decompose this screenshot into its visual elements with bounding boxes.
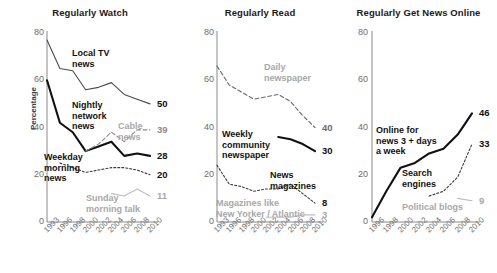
series-end-label: 39 (157, 124, 168, 135)
panel-regularly-read: Regularly Read 806040200 199319961998200… (180, 0, 340, 273)
series-end-label: 33 (479, 138, 490, 149)
plot-area-watch (0, 0, 180, 273)
annotation-online-for-news: Online for news 3 + days a week (376, 125, 437, 157)
annotation-weekly-community-newspaper: Weekly community newspaper (222, 129, 270, 161)
annotation-nightly-network-news: Nightly network news (72, 100, 107, 132)
annotation-magazines-like-new-yorker: Magazines like New Yorker / Atlantic (216, 198, 305, 219)
annotation-search-engines: Search engines (402, 168, 436, 189)
panel-regularly-get-news-online: Regularly Get News Online 806040200 1996… (340, 0, 497, 273)
annotation-cable-news: Cable news (118, 121, 143, 142)
series-end-label: 11 (157, 190, 167, 201)
series-end-label: 30 (322, 145, 333, 156)
series-line (278, 137, 315, 151)
series-line (458, 198, 472, 200)
series-end-label: 9 (479, 195, 484, 206)
panel-regularly-watch: Regularly Watch Percentage 806040200 199… (0, 0, 180, 273)
annotation-daily-newspaper: Daily newspaper (264, 62, 311, 83)
series-end-label: 20 (157, 169, 168, 180)
series-end-label: 8 (322, 197, 327, 208)
annotation-sunday-morning-talk: Sunday morning talk (86, 193, 140, 214)
annotation-weekday-morning-news: Weekday morning news (44, 152, 83, 184)
annotation-news-magazines: News magazines (270, 170, 316, 191)
series-end-label: 3 (322, 209, 327, 220)
chart-figure: Regularly Watch Percentage 806040200 199… (0, 0, 497, 273)
series-end-label: 46 (479, 107, 490, 118)
annotation-political-blogs: Political blogs (402, 202, 463, 213)
annotation-local-tv-news: Local TV news (72, 48, 110, 69)
series-end-label: 50 (157, 98, 168, 109)
series-end-label: 28 (157, 150, 168, 161)
series-end-label: 40 (322, 122, 333, 133)
